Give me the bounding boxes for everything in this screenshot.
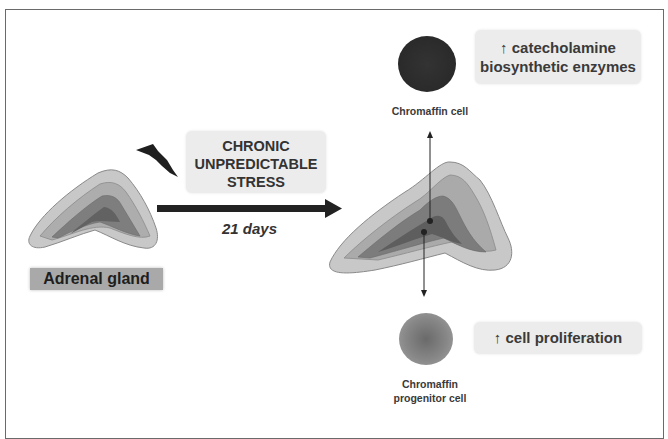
progenitor-cell-icon <box>399 313 453 365</box>
progenitor-cell-label: Chromaffin progenitor cell <box>380 377 480 405</box>
large-adrenal-gland <box>330 162 512 273</box>
enzyme-line-2: biosynthetic enzymes <box>475 57 641 76</box>
enzyme-effect-box: ↑ catecholamine biosynthetic enzymes <box>475 30 641 84</box>
small-adrenal-gland <box>29 170 158 248</box>
chromaffin-cell-label: Chromaffin cell <box>380 104 480 118</box>
stress-line-1: CHRONIC <box>186 137 326 155</box>
stress-line-2: UNPREDICTABLE <box>186 155 326 173</box>
proliferation-effect-box: ↑ cell proliferation <box>474 322 642 354</box>
lightning-bolt-icon <box>136 144 178 177</box>
chromaffin-cell-icon <box>398 36 456 92</box>
stress-condition-box: CHRONIC UNPREDICTABLE STRESS <box>186 131 326 193</box>
enzyme-line-1: ↑ catecholamine <box>475 38 641 57</box>
duration-label: 21 days <box>222 220 277 237</box>
stress-line-3: STRESS <box>186 173 326 191</box>
adrenal-gland-label: Adrenal gland <box>30 268 163 290</box>
right-arrow-icon <box>157 199 342 218</box>
